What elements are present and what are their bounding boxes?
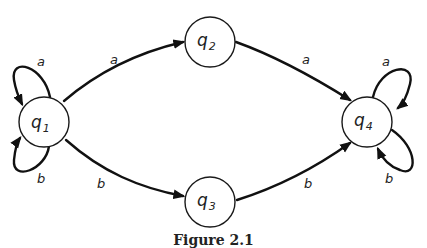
state-q3: q3 xyxy=(185,177,235,227)
edge-q1-q3 xyxy=(66,140,183,196)
label-q4-self-a: a xyxy=(382,54,390,69)
label-q1-q3: b xyxy=(97,176,105,191)
figure-caption: Figure 2.1 xyxy=(0,232,427,248)
state-q1: q1 xyxy=(19,97,69,147)
label-q1-self-b: b xyxy=(37,171,45,186)
edge-q1-q2 xyxy=(64,42,183,101)
label-q1-self-a: a xyxy=(37,54,45,69)
label-q3-q4: b xyxy=(304,176,312,191)
label-q2-q4: a xyxy=(302,52,310,67)
label-q1-q2: a xyxy=(110,52,118,67)
label-q4-self-b: b xyxy=(385,171,393,186)
state-q2: q2 xyxy=(185,17,235,67)
state-q4: q4 xyxy=(342,97,392,147)
edge-q2-q4 xyxy=(236,42,350,100)
edge-q3-q4 xyxy=(237,143,350,200)
